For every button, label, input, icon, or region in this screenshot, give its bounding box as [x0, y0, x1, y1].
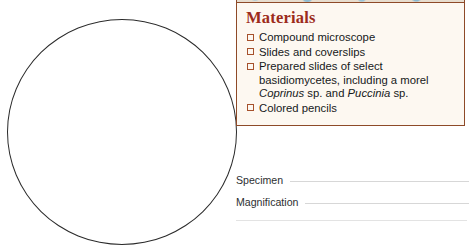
materials-item-label: Slides and coverslips [259, 46, 456, 59]
checkbox-icon[interactable] [247, 104, 254, 111]
specimen-field-label: Specimen [236, 174, 283, 186]
checkbox-icon[interactable] [247, 48, 254, 55]
specimen-field-row[interactable]: Specimen [236, 174, 469, 186]
materials-list-item[interactable]: Compound microscope [246, 31, 456, 44]
checkbox-icon[interactable] [247, 63, 254, 70]
specimen-field-rule[interactable] [290, 181, 469, 182]
magnification-field-row[interactable]: Magnification [236, 196, 469, 208]
materials-list-item[interactable]: Colored pencils [246, 102, 456, 115]
magnification-field-label: Magnification [236, 196, 298, 208]
blank-field-rule[interactable] [236, 220, 467, 221]
checkbox-icon[interactable] [247, 34, 254, 41]
materials-list-item[interactable]: Slides and coverslips [246, 46, 456, 59]
materials-box: Materials Compound microscope Slides and… [236, 0, 465, 126]
materials-body: Materials Compound microscope Slides and… [237, 3, 464, 125]
materials-heading: Materials [246, 8, 456, 28]
materials-list-item[interactable]: Prepared slides of select basidiomycetes… [246, 60, 456, 100]
magnification-field-rule[interactable] [305, 203, 469, 204]
materials-item-label: Compound microscope [259, 31, 456, 44]
materials-item-label: Prepared slides of select basidiomycetes… [259, 60, 456, 100]
materials-item-label: Colored pencils [259, 102, 456, 115]
specimen-drawing-circle[interactable] [7, 19, 237, 245]
